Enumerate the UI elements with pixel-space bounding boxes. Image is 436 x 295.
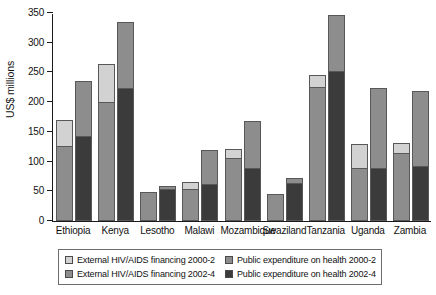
chart-container: US$ millions 050100150200250300350 Ethio… bbox=[0, 0, 436, 295]
bar-ethiopia-2000-2-public-segment bbox=[57, 147, 72, 220]
legend-label: External HIV/AIDS financing 2000-2 bbox=[77, 255, 215, 265]
bar-mozambique-2000-2-external-segment bbox=[226, 150, 241, 160]
bar-swaziland-2002-4-public-segment bbox=[287, 184, 302, 220]
bar-zambia-2002-4-public-segment bbox=[413, 167, 428, 220]
legend-label: External HIV/AIDS financing 2002-4 bbox=[77, 269, 215, 279]
y-tick-label: 0 bbox=[39, 216, 44, 226]
y-tick: 350 bbox=[47, 12, 53, 13]
legend-item-external-2002-4: External HIV/AIDS financing 2002-4 bbox=[65, 269, 225, 279]
legend-swatch-icon bbox=[65, 256, 73, 264]
y-tick-label: 150 bbox=[28, 127, 44, 137]
legend-label: Public expenditure on health 2000-2 bbox=[237, 255, 376, 265]
bar-zambia-2002-4 bbox=[412, 91, 429, 221]
bar-kenya-2000-2 bbox=[98, 64, 115, 221]
bar-group-ethiopia bbox=[56, 14, 92, 221]
bar-group-malawi bbox=[182, 14, 218, 221]
bar-kenya-2002-4-external-segment bbox=[118, 23, 133, 89]
bar-mozambique-2002-4-external-segment bbox=[245, 122, 260, 169]
bar-uganda-2002-4-external-segment bbox=[371, 89, 386, 169]
x-axis-label-ethiopia: Ethiopia bbox=[52, 225, 94, 236]
bar-swaziland-2000-2-public-segment bbox=[268, 195, 283, 220]
legend-item-public-2002-4: Public expenditure on health 2002-4 bbox=[225, 269, 375, 279]
y-tick: 250 bbox=[47, 71, 53, 72]
legend-label: Public expenditure on health 2002-4 bbox=[237, 269, 376, 279]
y-tick: 300 bbox=[47, 42, 53, 43]
y-tick-label: 50 bbox=[33, 186, 44, 196]
bar-lesotho-2002-4 bbox=[159, 186, 176, 221]
y-tick: 150 bbox=[47, 131, 53, 132]
y-axis-title: US$ millions bbox=[4, 61, 16, 118]
bar-mozambique-2002-4 bbox=[244, 121, 261, 221]
bar-lesotho-2000-2-public-segment bbox=[141, 193, 156, 220]
bar-tanzania-2000-2 bbox=[309, 75, 326, 221]
bar-zambia-2000-2-external-segment bbox=[394, 144, 409, 154]
y-tick-label: 350 bbox=[28, 8, 44, 18]
bar-group-zambia bbox=[393, 14, 429, 221]
y-tick: 100 bbox=[47, 161, 53, 162]
bar-kenya-2000-2-external-segment bbox=[99, 65, 114, 103]
bar-tanzania-2002-4-public-segment bbox=[329, 72, 344, 220]
bar-mozambique-2000-2-public-segment bbox=[226, 159, 241, 220]
bar-tanzania-2002-4-external-segment bbox=[329, 16, 344, 73]
legend-swatch-icon bbox=[225, 256, 233, 264]
x-axis-label-kenya: Kenya bbox=[94, 225, 136, 236]
y-tick: 50 bbox=[47, 190, 53, 191]
y-tick-label: 200 bbox=[28, 97, 44, 107]
y-tick-label: 250 bbox=[28, 67, 44, 77]
x-axis-label-lesotho: Lesotho bbox=[136, 225, 178, 236]
bar-uganda-2000-2 bbox=[351, 144, 368, 221]
bar-group-tanzania bbox=[309, 14, 345, 221]
x-axis-label-uganda: Uganda bbox=[347, 225, 389, 236]
bar-tanzania-2002-4 bbox=[328, 15, 345, 221]
x-axis-label-mozambique: Mozambique bbox=[220, 225, 262, 236]
bar-ethiopia-2002-4-external-segment bbox=[76, 82, 91, 136]
bar-uganda-2000-2-public-segment bbox=[352, 169, 367, 221]
legend-row-2002-4: External HIV/AIDS financing 2002-4 Publi… bbox=[65, 267, 375, 281]
x-axis-label-tanzania: Tanzania bbox=[305, 225, 347, 236]
bar-group-uganda bbox=[351, 14, 387, 221]
bar-zambia-2002-4-external-segment bbox=[413, 92, 428, 167]
bar-mozambique-2002-4-public-segment bbox=[245, 169, 260, 220]
chart-legend: External HIV/AIDS financing 2000-2 Publi… bbox=[58, 249, 382, 285]
bar-ethiopia-2000-2 bbox=[56, 120, 73, 221]
bar-ethiopia-2002-4 bbox=[75, 81, 92, 221]
y-tick: 0 bbox=[47, 220, 53, 221]
bar-ethiopia-2002-4-public-segment bbox=[76, 137, 91, 220]
bar-malawi-2000-2-public-segment bbox=[183, 190, 198, 220]
bar-kenya-2002-4 bbox=[117, 22, 134, 221]
bar-kenya-2002-4-public-segment bbox=[118, 89, 133, 220]
bar-kenya-2000-2-public-segment bbox=[99, 103, 114, 220]
bar-tanzania-2000-2-external-segment bbox=[310, 76, 325, 88]
legend-item-public-2000-2: Public expenditure on health 2000-2 bbox=[225, 255, 375, 265]
legend-swatch-icon bbox=[65, 270, 73, 278]
bar-malawi-2002-4 bbox=[201, 150, 218, 221]
plot-area: 050100150200250300350 bbox=[52, 14, 431, 222]
x-axis-label-zambia: Zambia bbox=[389, 225, 431, 236]
x-axis-label-swaziland: Swaziland bbox=[263, 225, 305, 236]
bar-group-swaziland bbox=[267, 14, 303, 221]
bar-swaziland-2000-2 bbox=[267, 194, 284, 221]
legend-swatch-icon bbox=[225, 270, 233, 278]
bar-uganda-2002-4-public-segment bbox=[371, 169, 386, 220]
bar-ethiopia-2000-2-external-segment bbox=[57, 121, 72, 147]
bar-uganda-2000-2-external-segment bbox=[352, 145, 367, 169]
bar-malawi-2000-2 bbox=[182, 182, 199, 221]
legend-row-2000-2: External HIV/AIDS financing 2000-2 Publi… bbox=[65, 253, 375, 267]
bar-tanzania-2000-2-public-segment bbox=[310, 88, 325, 220]
y-tick-label: 300 bbox=[28, 38, 44, 48]
bar-group-lesotho bbox=[140, 14, 176, 221]
y-tick-label: 100 bbox=[28, 157, 44, 167]
bar-uganda-2002-4 bbox=[370, 88, 387, 221]
bar-group-mozambique bbox=[225, 14, 261, 221]
bar-zambia-2000-2 bbox=[393, 143, 410, 221]
legend-item-external-2000-2: External HIV/AIDS financing 2000-2 bbox=[65, 255, 225, 265]
bar-zambia-2000-2-public-segment bbox=[394, 154, 409, 220]
y-tick: 200 bbox=[47, 101, 53, 102]
bar-mozambique-2000-2 bbox=[225, 149, 242, 222]
bar-malawi-2002-4-external-segment bbox=[202, 151, 217, 185]
bar-swaziland-2002-4 bbox=[286, 178, 303, 221]
bar-group-kenya bbox=[98, 14, 134, 221]
bar-lesotho-2002-4-public-segment bbox=[160, 190, 175, 220]
bar-lesotho-2000-2 bbox=[140, 192, 157, 221]
bar-malawi-2002-4-public-segment bbox=[202, 185, 217, 220]
